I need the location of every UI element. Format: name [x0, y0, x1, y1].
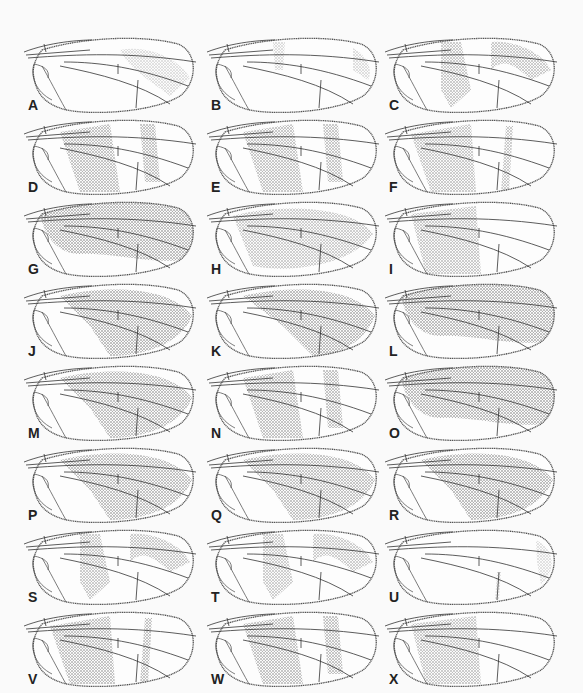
wing-panel-r: R	[381, 440, 561, 530]
panel-label: G	[28, 262, 39, 276]
panel-label: N	[211, 426, 221, 440]
wing-panel-h: H	[203, 194, 383, 284]
wing-panel-k: K	[203, 276, 383, 366]
panel-label: P	[28, 508, 37, 522]
panel-label: A	[28, 98, 38, 112]
panel-label: C	[389, 98, 399, 112]
panel-label: M	[28, 426, 40, 440]
wing-panel-a: A	[20, 30, 200, 120]
wing-panel-c: C	[381, 30, 561, 120]
wing-panel-m: M	[20, 358, 200, 448]
panel-label: S	[28, 590, 37, 604]
wing-panel-l: L	[381, 276, 561, 366]
panel-label: I	[389, 262, 393, 276]
wing-panel-x: X	[381, 604, 561, 693]
wing-illustration	[20, 604, 200, 693]
panel-label: X	[389, 672, 398, 686]
wing-panel-s: S	[20, 522, 200, 612]
wing-illustration	[381, 112, 561, 202]
wing-illustration	[203, 30, 383, 120]
panel-label: T	[211, 590, 220, 604]
panel-label: W	[211, 672, 224, 686]
wing-illustration	[203, 358, 383, 448]
wing-illustration	[381, 276, 561, 366]
wing-illustration	[381, 194, 561, 284]
wing-panel-n: N	[203, 358, 383, 448]
wing-panel-o: O	[381, 358, 561, 448]
wing-illustration	[20, 358, 200, 448]
wing-panel-u: U	[381, 522, 561, 612]
wing-illustration	[381, 604, 561, 693]
wing-panel-w: W	[203, 604, 383, 693]
panel-label: U	[389, 590, 399, 604]
wing-panel-t: T	[203, 522, 383, 612]
wing-illustration	[20, 194, 200, 284]
panel-label: H	[211, 262, 221, 276]
wing-illustration	[203, 440, 383, 530]
wing-illustration	[20, 112, 200, 202]
wing-figure-plate: A	[0, 0, 583, 693]
wing-illustration	[381, 522, 561, 612]
wing-illustration	[20, 522, 200, 612]
panel-label: R	[389, 508, 399, 522]
wing-illustration	[203, 522, 383, 612]
panel-label: Q	[211, 508, 222, 522]
panel-label: E	[211, 180, 220, 194]
wing-panel-d: D	[20, 112, 200, 202]
panel-label: J	[28, 344, 36, 358]
wing-panel-q: Q	[203, 440, 383, 530]
wing-illustration	[20, 276, 200, 366]
panel-label: D	[28, 180, 38, 194]
panel-label: K	[211, 344, 221, 358]
panel-label: O	[389, 426, 400, 440]
wing-illustration	[381, 440, 561, 530]
panel-label: F	[389, 180, 398, 194]
wing-panel-p: P	[20, 440, 200, 530]
wing-panel-g: G	[20, 194, 200, 284]
panel-label: V	[28, 672, 37, 686]
wing-panel-f: F	[381, 112, 561, 202]
wing-illustration	[203, 276, 383, 366]
wing-illustration	[381, 30, 561, 120]
wing-panel-v: V	[20, 604, 200, 693]
panel-label: B	[211, 98, 221, 112]
wing-illustration	[203, 604, 383, 693]
wing-illustration	[203, 112, 383, 202]
wing-illustration	[20, 440, 200, 530]
panel-label: L	[389, 344, 398, 358]
wing-panel-b: B	[203, 30, 383, 120]
wing-illustration	[20, 30, 200, 120]
wing-illustration	[203, 194, 383, 284]
wing-panel-e: E	[203, 112, 383, 202]
wing-panel-i: I	[381, 194, 561, 284]
wing-panel-j: J	[20, 276, 200, 366]
wing-illustration	[381, 358, 561, 448]
